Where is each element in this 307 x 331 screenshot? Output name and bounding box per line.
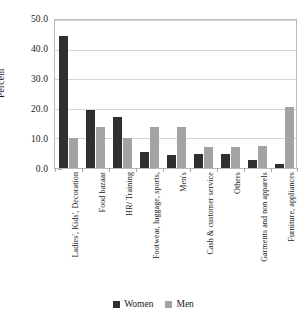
y-tick-label: 10.0 — [31, 134, 48, 144]
bar-group — [271, 20, 298, 168]
y-axis-title: Percent — [0, 68, 6, 98]
chart-legend: WomenMen — [0, 299, 307, 309]
bar-chart: Percent 0.010.020.030.040.050.0 Ladies',… — [0, 0, 307, 331]
bar-women — [59, 36, 68, 168]
legend-label: Men — [176, 299, 193, 309]
bar-group — [109, 20, 136, 168]
x-axis-label: Ladies', Kids', Decoration — [72, 172, 80, 257]
bar-group — [55, 20, 82, 168]
y-tick-label: 0.0 — [36, 164, 48, 174]
y-axis-labels: 0.010.020.030.040.050.0 — [8, 19, 52, 169]
bar-women — [194, 154, 203, 168]
x-axis-label: HR/ Training — [126, 172, 134, 216]
y-tick-label: 50.0 — [31, 14, 48, 24]
y-tick-label: 40.0 — [31, 44, 48, 54]
bar-group — [244, 20, 271, 168]
bar-men — [231, 147, 240, 168]
bar-women — [221, 154, 230, 168]
bar-women — [167, 155, 176, 168]
legend-swatch-icon — [113, 301, 120, 308]
bar-group — [136, 20, 163, 168]
bar-men — [123, 138, 132, 168]
x-axis-label: Men's — [180, 172, 188, 192]
bar-women — [140, 152, 149, 168]
x-axis-label: Others — [234, 172, 242, 194]
bar-group — [163, 20, 190, 168]
bar-group — [82, 20, 109, 168]
bar-men — [150, 127, 159, 168]
legend-swatch-icon — [165, 301, 172, 308]
bar-women — [86, 110, 95, 168]
y-tick-label: 30.0 — [31, 74, 48, 84]
bars-layer — [55, 20, 296, 168]
x-axis-label: Food bazaar — [99, 172, 107, 212]
bar-men — [285, 107, 294, 168]
x-axis-label: Garments and non apparels — [261, 172, 269, 262]
legend-item: Men — [165, 299, 193, 309]
bar-group — [190, 20, 217, 168]
bar-men — [204, 147, 213, 168]
bar-men — [96, 127, 105, 168]
bar-women — [248, 160, 257, 168]
x-axis-label: Cash & customer service — [207, 172, 215, 255]
x-axis-label: Footwear, luggage, sports, — [153, 172, 161, 259]
legend-item: Women — [113, 299, 153, 309]
y-tick-label: 20.0 — [31, 104, 48, 114]
bar-men — [177, 127, 186, 168]
x-axis-label: Furniture, appliances — [288, 172, 296, 242]
legend-label: Women — [124, 299, 153, 309]
x-tick-mark — [297, 168, 298, 172]
bar-women — [113, 117, 122, 168]
x-axis-labels: Ladies', Kids', DecorationFood bazaarHR/… — [55, 172, 296, 290]
bar-men — [69, 138, 78, 168]
bar-men — [258, 146, 267, 168]
bar-group — [217, 20, 244, 168]
